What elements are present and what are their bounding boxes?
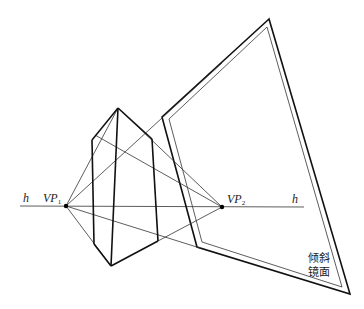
vp2-point	[220, 205, 224, 209]
horizon-label-right: h	[292, 193, 298, 205]
perspective-diagram: h VP1 VP2 h 倾斜 镜面	[0, 0, 364, 309]
mirror-inner	[169, 27, 342, 287]
vp1-point	[64, 204, 68, 208]
vp1-construction-lines	[66, 63, 222, 266]
vp2-label-text: VP	[227, 192, 242, 206]
horizon-line	[20, 206, 304, 207]
mirror-label: 倾斜 镜面	[306, 252, 332, 280]
vp1-label-sub: 1	[58, 198, 62, 206]
horizon-label-left: h	[23, 192, 29, 204]
vp1-label-text: VP	[43, 191, 58, 205]
mirror-label-line2: 镜面	[306, 266, 332, 280]
vp2-label-sub: 2	[242, 199, 246, 207]
vp1-label: VP1	[43, 192, 61, 206]
mirror-label-line1: 倾斜	[306, 252, 332, 266]
pyramid	[92, 108, 158, 266]
vp2-label: VP2	[227, 193, 245, 207]
